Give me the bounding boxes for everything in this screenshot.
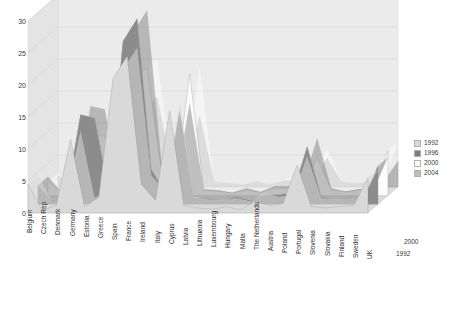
category-axis-tick-label: Greece	[97, 217, 104, 238]
chart-plot-area	[0, 0, 454, 313]
chart-legend: 1992199620002004	[414, 138, 438, 178]
legend-swatch-icon	[414, 150, 421, 157]
legend-item[interactable]: 2000	[414, 158, 438, 168]
category-axis-tick-label: Slovenia	[309, 230, 316, 255]
legend-item-label: 2000	[424, 158, 438, 168]
category-axis-tick-label: Czech Rep	[40, 202, 47, 234]
legend-swatch-icon	[414, 170, 421, 177]
category-axis-tick-label: Italy	[154, 231, 161, 243]
category-axis-tick-label: Germany	[69, 210, 76, 237]
category-axis-tick-label: France	[125, 220, 132, 240]
category-axis-tick-label: Spain	[111, 223, 118, 240]
category-axis-tick-label: Sweden	[352, 234, 359, 258]
category-axis-tick-label: Belgium	[26, 210, 33, 233]
category-axis-tick-label: Luxembourg	[210, 211, 217, 247]
category-axis-tick-label: UK	[366, 250, 373, 259]
legend-swatch-icon	[414, 160, 421, 167]
category-axis-tick-label: Lithuania	[196, 220, 203, 246]
category-axis-tick-label: Denmark	[54, 209, 61, 235]
category-axis-tick-label: Hungary	[224, 224, 231, 249]
legend-item-label: 1992	[424, 138, 438, 148]
category-axis-tick-label: Slovakia	[324, 231, 331, 256]
category-axis-tick-label: Latvia	[182, 228, 189, 245]
category-axis-tick-label: Ireland	[139, 222, 146, 242]
chart-container: 051015202530 BelgiumCzech RepDenmarkGerm…	[0, 0, 454, 313]
legend-item[interactable]: 2004	[414, 168, 438, 178]
category-axis-tick-label: Poland	[281, 232, 288, 252]
category-axis-tick-label: Finland	[338, 236, 345, 257]
legend-swatch-icon	[414, 140, 421, 147]
category-axis-tick-label: The Netherlands	[253, 202, 260, 250]
legend-item[interactable]: 1992	[414, 138, 438, 148]
depth-axis-label-bottom: 1992	[396, 250, 410, 257]
category-axis-tick-label: Cyprus	[168, 223, 175, 244]
legend-item-label: 1996	[424, 148, 438, 158]
category-axis-tick-label: Malta	[239, 233, 246, 249]
depth-axis-label-top: 2000	[404, 238, 418, 245]
legend-item-label: 2004	[424, 168, 438, 178]
category-axis-tick-label: Austria	[267, 231, 274, 251]
category-axis-tick-label: Portugal	[295, 229, 302, 253]
category-axis-tick-label: Estonia	[83, 216, 90, 238]
legend-item[interactable]: 1996	[414, 148, 438, 158]
